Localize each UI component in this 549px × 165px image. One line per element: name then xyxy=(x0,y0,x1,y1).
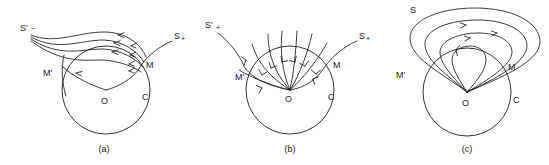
panel-c: S M' M O C (c) xyxy=(396,5,540,154)
flow-arrow xyxy=(129,68,135,73)
trajectory-curve xyxy=(31,37,144,62)
label-c-panel-c: C xyxy=(513,95,520,105)
label-m-panel-a: M xyxy=(146,60,154,70)
label-m-prime-panel-c: M' xyxy=(396,70,405,80)
label-s-prime-minus-sign-panel-a: − xyxy=(31,25,35,32)
flow-arrow xyxy=(464,36,470,41)
label-s-plus-panel-b: S xyxy=(359,31,365,41)
flow-arrow xyxy=(456,45,460,55)
homoclinic-loop xyxy=(440,33,512,92)
label-s-plus-sign-panel-b: + xyxy=(366,35,370,42)
label-s-plus-panel-a: S xyxy=(174,31,180,41)
caption-panel-c: (c) xyxy=(462,144,473,154)
label-s-prime-plus-panel-b: S' xyxy=(205,20,213,30)
label-s-prime-plus-sign-panel-b: + xyxy=(216,24,220,31)
flow-arrow xyxy=(311,70,320,74)
label-m-panel-c: M xyxy=(508,62,516,72)
flow-arrow xyxy=(313,77,318,85)
phase-portrait-figure: S' − S + M' M O C (a) xyxy=(0,0,549,165)
label-m-prime-panel-a: M' xyxy=(43,68,52,78)
flow-arrow xyxy=(460,23,466,28)
homoclinic-loop xyxy=(410,8,540,92)
label-o-panel-a: O xyxy=(101,96,108,106)
loop-family-panel-c xyxy=(410,8,540,92)
flow-arrow xyxy=(259,70,267,75)
label-o-panel-b: O xyxy=(285,94,292,104)
trajectory-curve xyxy=(290,31,297,90)
label-m-panel-b: M xyxy=(333,60,341,70)
label-s-plus-sign-panel-a: + xyxy=(181,35,185,42)
flow-arrow xyxy=(257,86,262,93)
flow-arrow xyxy=(131,43,137,48)
panel-a: S' − S + M' M O C (a) xyxy=(20,23,185,154)
flow-arrow xyxy=(129,61,135,66)
separatrix-lower-panel-a xyxy=(62,66,106,90)
label-o-panel-c: O xyxy=(462,98,469,108)
arrowheads-panel-c xyxy=(456,23,497,56)
panel-b: S' + S + M' M O C (b) xyxy=(205,20,370,154)
label-m-prime-panel-b: M' xyxy=(235,72,244,82)
separatrix-s-plus-panel-a xyxy=(106,41,172,90)
arrowheads-panel-a xyxy=(76,33,137,76)
caption-panel-a: (a) xyxy=(99,144,110,154)
flow-arrow xyxy=(76,71,82,76)
label-s-prime-minus-panel-a: S' xyxy=(20,23,28,33)
figure-container: S' − S + M' M O C (a) xyxy=(0,0,549,165)
trajectory-curve xyxy=(31,32,146,57)
caption-panel-b: (b) xyxy=(285,144,296,154)
label-c-panel-b: C xyxy=(328,92,335,102)
label-c-panel-a: C xyxy=(142,92,149,102)
label-s-panel-c: S xyxy=(410,5,416,15)
separatrix-s-prime-plus-panel-b xyxy=(218,33,290,90)
